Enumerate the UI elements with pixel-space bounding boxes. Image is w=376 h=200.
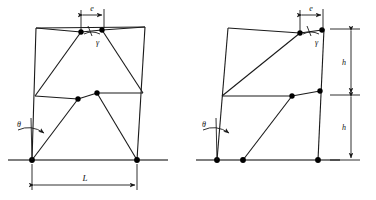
left-node-mid-right [94, 90, 99, 95]
left-brace-lower-left [32, 99, 78, 160]
left-node-top-right [99, 27, 104, 32]
right-column-left [217, 28, 228, 160]
right-gamma-label: γ [315, 38, 319, 47]
right-node-top-right [319, 27, 324, 32]
right-beam-top-b [300, 30, 322, 33]
left-beam-middle-b [78, 93, 97, 99]
right-e-label: e [309, 4, 313, 13]
left-brace-upper-right [102, 30, 143, 93]
left-frame-panel: e γ θ L [8, 4, 168, 190]
right-theta-label: θ [202, 120, 206, 129]
left-beam-middle-a [35, 96, 78, 99]
left-L-label: L [81, 173, 87, 183]
right-theta-vertical [216, 118, 217, 160]
left-gamma-arc [84, 32, 100, 34]
right-beam-middle-b [292, 91, 320, 96]
right-frame-panel: e γ θ h h [196, 4, 360, 163]
right-h-upper-label: h [342, 58, 346, 67]
left-theta-label: θ [17, 120, 21, 129]
left-beam-top-a [36, 28, 81, 32]
right-support-brace [240, 157, 246, 163]
right-node-mid-left [289, 93, 294, 98]
figure-canvas: e γ θ L e [0, 0, 376, 200]
right-h-lower-label: h [342, 123, 346, 132]
right-beam-top-a [228, 28, 300, 33]
right-node-mid-right [317, 88, 322, 93]
left-e-label: e [90, 4, 94, 13]
left-support-right [134, 157, 140, 163]
right-node-top-left [297, 30, 302, 35]
right-brace-upper [222, 33, 300, 96]
left-brace-upper-left [35, 32, 81, 96]
left-brace-lower-right [97, 93, 137, 160]
right-column-right [318, 29, 324, 160]
left-column-left [32, 28, 36, 160]
left-node-mid-left [75, 96, 80, 101]
left-theta-vertical [31, 118, 32, 160]
right-gamma-tick [307, 26, 311, 36]
frame-diagram-svg: e γ θ L e [0, 0, 376, 200]
right-support-right [315, 157, 321, 163]
left-gamma-label: γ [96, 38, 100, 47]
right-brace-lower [243, 96, 292, 160]
left-node-top-left [78, 29, 83, 34]
